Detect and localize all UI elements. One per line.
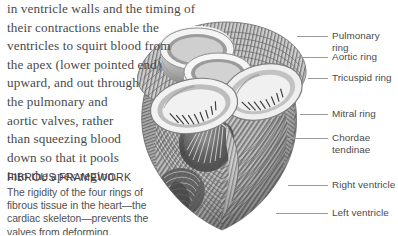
callout-label: Left ventricle: [332, 207, 389, 219]
leader-line: [297, 57, 328, 58]
fibrous-framework-caption: FIBROUS FRAMEWORK The rigidity of the fo…: [7, 171, 155, 235]
body-paragraph: in ventricle walls and the timing of the…: [7, 0, 207, 186]
leader-line: [276, 213, 328, 214]
leader-line: [289, 138, 328, 139]
callout-label: Chordae tendinae: [332, 132, 370, 157]
leader-line: [308, 78, 328, 79]
caption-body: The rigidity of the four rings of fibrou…: [7, 186, 155, 236]
callout-label: Mitral ring: [332, 108, 376, 120]
callout-label: Aortic ring: [332, 51, 377, 63]
callout-label: Tricuspid ring: [332, 72, 392, 84]
leader-line: [297, 36, 328, 37]
callout-label: Right ventricle: [332, 179, 395, 191]
caption-heading: FIBROUS FRAMEWORK: [7, 171, 155, 185]
leader-line: [288, 185, 328, 186]
leader-line: [300, 114, 328, 115]
illustration-page: in ventricle walls and the timing of the…: [0, 0, 398, 235]
